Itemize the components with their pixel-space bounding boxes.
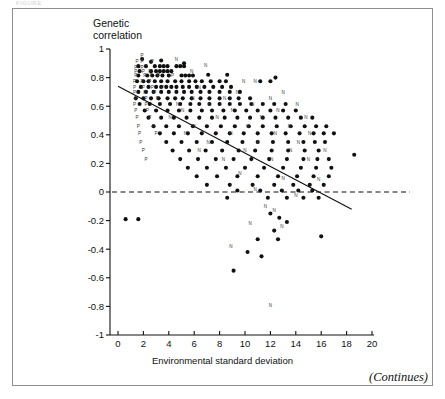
data-point bbox=[154, 85, 158, 89]
data-point bbox=[138, 102, 142, 106]
data-point-label: N bbox=[184, 131, 187, 136]
data-point-label: P bbox=[134, 96, 137, 101]
data-point bbox=[165, 96, 169, 100]
data-point bbox=[258, 189, 262, 193]
data-point-label: P bbox=[144, 96, 147, 101]
data-point-label: P bbox=[151, 59, 154, 64]
data-point-label: N bbox=[260, 115, 263, 120]
data-point-label: N bbox=[204, 63, 207, 68]
data-point bbox=[199, 96, 203, 100]
data-point-label: P bbox=[141, 79, 144, 84]
data-point bbox=[124, 217, 128, 221]
data-point bbox=[225, 73, 229, 77]
data-point bbox=[256, 108, 260, 112]
data-point bbox=[168, 102, 172, 106]
data-point bbox=[299, 116, 303, 120]
data-point bbox=[352, 153, 356, 157]
data-point bbox=[256, 174, 260, 178]
data-point bbox=[232, 157, 236, 161]
data-point-label: P bbox=[152, 124, 155, 129]
y-tick-label: -0.2 bbox=[88, 215, 104, 226]
data-point bbox=[220, 85, 224, 89]
data-point bbox=[197, 116, 201, 120]
data-point-label: P bbox=[137, 124, 140, 129]
data-point bbox=[178, 64, 182, 68]
data-point bbox=[144, 64, 148, 68]
data-point-label: N bbox=[238, 171, 241, 176]
data-point bbox=[193, 79, 197, 83]
y-tick-label: -0.4 bbox=[88, 244, 104, 255]
data-point bbox=[181, 85, 185, 89]
data-point bbox=[317, 148, 321, 152]
data-point-label: N bbox=[253, 187, 256, 192]
data-point-label: P bbox=[139, 140, 142, 145]
data-point bbox=[159, 116, 163, 120]
figure-page: FIGURE Genetic correlation Environmental… bbox=[0, 0, 445, 399]
data-point bbox=[228, 102, 232, 106]
data-point bbox=[273, 116, 277, 120]
data-point bbox=[200, 79, 204, 83]
data-point bbox=[200, 131, 204, 135]
data-point bbox=[301, 140, 305, 144]
data-point-label: N bbox=[273, 208, 276, 213]
data-point bbox=[224, 79, 228, 83]
data-point bbox=[196, 157, 200, 161]
data-point bbox=[174, 90, 178, 94]
data-point bbox=[261, 124, 265, 128]
data-point bbox=[158, 131, 162, 135]
data-point bbox=[229, 85, 233, 89]
data-point-label: P bbox=[133, 102, 136, 107]
data-point bbox=[224, 166, 228, 170]
data-point-label: N bbox=[191, 96, 194, 101]
data-point bbox=[270, 148, 274, 152]
data-point-label: P bbox=[138, 131, 141, 136]
data-point bbox=[179, 140, 183, 144]
x-tick-label: 6 bbox=[192, 338, 197, 349]
data-point bbox=[162, 64, 166, 68]
data-point bbox=[178, 157, 182, 161]
data-point-label: N bbox=[223, 96, 226, 101]
data-point bbox=[248, 116, 252, 120]
data-point bbox=[185, 116, 189, 120]
data-point bbox=[153, 64, 157, 68]
x-tick-label: 20 bbox=[367, 338, 378, 349]
data-point bbox=[218, 79, 222, 83]
x-tick-label: 4 bbox=[166, 338, 171, 349]
data-point bbox=[174, 64, 178, 68]
data-point-label: N bbox=[190, 69, 193, 74]
data-point bbox=[199, 90, 203, 94]
data-point bbox=[258, 79, 262, 83]
data-point bbox=[187, 79, 191, 83]
data-point bbox=[186, 166, 190, 170]
data-point-label: N bbox=[323, 148, 326, 153]
data-point bbox=[205, 183, 209, 187]
data-point bbox=[256, 131, 260, 135]
data-point bbox=[164, 140, 168, 144]
data-point-label: N bbox=[281, 176, 284, 181]
data-point bbox=[317, 196, 321, 200]
x-tick-label: 12 bbox=[265, 338, 276, 349]
data-point bbox=[301, 157, 305, 161]
data-point-label: P bbox=[153, 90, 156, 95]
data-point-label: P bbox=[141, 59, 144, 64]
data-point bbox=[214, 157, 218, 161]
data-point bbox=[148, 102, 152, 106]
data-point bbox=[164, 124, 168, 128]
data-point bbox=[209, 79, 213, 83]
data-point bbox=[164, 85, 168, 89]
data-point-label: P bbox=[148, 115, 151, 120]
x-tick-label: 8 bbox=[217, 338, 222, 349]
data-point bbox=[286, 140, 290, 144]
data-point bbox=[225, 140, 229, 144]
data-point bbox=[169, 85, 173, 89]
data-point bbox=[298, 131, 302, 135]
data-point-label: N bbox=[281, 90, 284, 95]
data-point bbox=[200, 108, 204, 112]
data-point bbox=[179, 73, 183, 77]
data-point bbox=[173, 96, 177, 100]
data-point bbox=[165, 69, 169, 73]
data-point bbox=[160, 73, 164, 77]
data-point bbox=[210, 116, 214, 120]
data-point bbox=[158, 102, 162, 106]
data-point-label: N bbox=[168, 115, 171, 120]
